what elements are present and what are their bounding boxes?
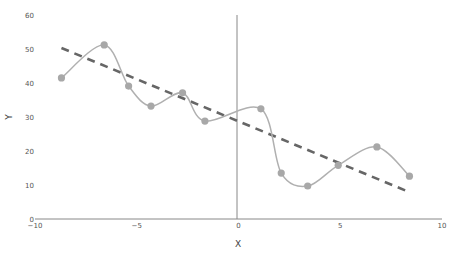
- trend-line: [61, 48, 409, 192]
- data-point-marker: [147, 103, 154, 110]
- y-tick-label: 50: [25, 46, 34, 54]
- axes: [35, 15, 442, 219]
- data-point-marker: [101, 41, 108, 48]
- x-tick-label: 5: [338, 222, 342, 230]
- y-tick-label: 20: [25, 148, 34, 156]
- data-curve: [61, 45, 409, 187]
- data-point-marker: [179, 89, 186, 96]
- y-tick-label: 10: [25, 182, 34, 190]
- x-tick-label: 10: [438, 222, 447, 230]
- y-tick-label: 40: [25, 80, 34, 88]
- y-tick-label: 0: [30, 216, 34, 224]
- y-tick-label: 60: [25, 12, 34, 20]
- data-markers: [58, 41, 413, 189]
- data-point-marker: [257, 105, 264, 112]
- x-tick-label: −5: [132, 222, 142, 230]
- x-tick-label: 0: [236, 222, 240, 230]
- data-point-marker: [201, 117, 208, 124]
- data-point-marker: [58, 74, 65, 81]
- chart-canvas: −10−50510 0102030405060 X Y: [0, 0, 452, 261]
- data-point-marker: [406, 173, 413, 180]
- y-tick-labels: 0102030405060: [25, 12, 34, 224]
- data-point-marker: [373, 143, 380, 150]
- data-point-marker: [125, 82, 132, 89]
- data-point-marker: [304, 182, 311, 189]
- data-point-marker: [278, 170, 285, 177]
- x-axis-title: X: [235, 239, 241, 249]
- x-tick-labels: −10−50510: [28, 222, 447, 230]
- y-tick-label: 30: [25, 114, 34, 122]
- y-axis-title: Y: [4, 114, 14, 121]
- data-point-marker: [335, 162, 342, 169]
